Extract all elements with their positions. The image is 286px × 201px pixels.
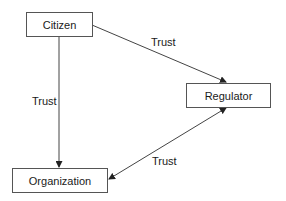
edge-label-citizen-regulator: Trust bbox=[151, 36, 176, 48]
edge-organization-regulator bbox=[109, 108, 226, 179]
node-regulator-label: Regulator bbox=[205, 90, 253, 102]
node-citizen-label: Citizen bbox=[43, 19, 77, 31]
edge-label-citizen-organization: Trust bbox=[32, 95, 57, 107]
edge-citizen-regulator bbox=[92, 25, 226, 82]
node-organization-label: Organization bbox=[29, 175, 91, 187]
node-organization: Organization bbox=[12, 168, 108, 193]
node-citizen: Citizen bbox=[26, 12, 93, 37]
edge-label-organization-regulator: Trust bbox=[152, 155, 177, 167]
node-regulator: Regulator bbox=[186, 83, 271, 108]
